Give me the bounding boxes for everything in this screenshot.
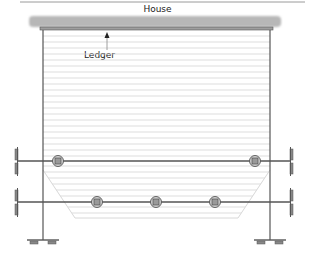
house-wall <box>29 16 281 27</box>
deck-framing-diagram <box>0 0 315 261</box>
post-lower-right <box>210 197 221 208</box>
post-lower-center <box>151 197 162 208</box>
post-upper-right <box>250 156 261 167</box>
footing-right <box>254 240 286 244</box>
post-upper-left <box>53 156 64 167</box>
decking-boards <box>43 36 270 213</box>
deck-outline-chamfer <box>43 170 270 218</box>
ledger-arrow <box>105 32 110 50</box>
post-lower-left <box>92 197 103 208</box>
footing-left <box>27 240 59 244</box>
ledger-board <box>40 27 273 30</box>
